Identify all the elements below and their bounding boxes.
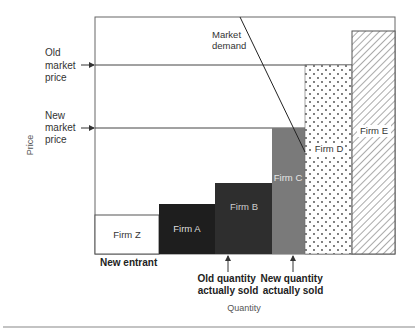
firm-e-bar xyxy=(352,31,395,254)
firm-a-label: Firm A xyxy=(173,223,201,234)
new-price-label: New market price xyxy=(45,110,78,145)
firm-e-label: Firm E xyxy=(360,125,388,136)
firm-d-bar xyxy=(305,65,352,254)
firm-c-bar xyxy=(272,128,305,254)
x-axis-label: Quantity xyxy=(227,303,261,313)
market-demand-label: Market demand xyxy=(212,29,246,51)
firm-z-label: Firm Z xyxy=(113,229,141,240)
new-quantity-label: New quantity actually sold xyxy=(260,273,325,296)
firm-c-label: Firm C xyxy=(274,172,303,183)
old-price-label: Old market price xyxy=(45,47,78,83)
y-axis-label: Price xyxy=(25,135,35,156)
old-quantity-label: Old quantity actually sold xyxy=(197,273,258,296)
firm-d-label: Firm D xyxy=(315,143,344,154)
firm-b-bar xyxy=(215,183,272,254)
firm-b-label: Firm B xyxy=(230,201,258,212)
supply-curve-diagram: Old market price New market price Price … xyxy=(0,0,419,333)
new-entrant-label: New entrant xyxy=(100,257,158,268)
